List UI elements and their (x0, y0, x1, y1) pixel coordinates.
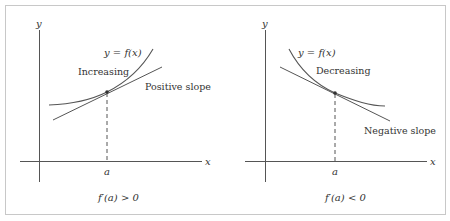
right-tangent-label: Negative slope (364, 125, 436, 136)
derivative-sign-diagram: y x y = f(x) Increasing Positive slope a… (0, 0, 450, 221)
left-curve-label: y = f(x) (103, 47, 142, 58)
left-tangent-label: Positive slope (145, 81, 211, 92)
left-tangent-point (105, 90, 109, 94)
left-trend-label: Increasing (78, 66, 129, 77)
left-panel: y x y = f(x) Increasing Positive slope a… (20, 18, 211, 203)
right-caption: f′(a) < 0 (324, 192, 366, 203)
left-x-axis-label: x (205, 156, 211, 167)
left-caption: f′(a) > 0 (97, 192, 139, 203)
right-x-axis-label: x (430, 156, 436, 167)
right-panel: y x y = f(x) Decreasing Negative slope a… (245, 18, 436, 203)
left-y-axis-label: y (35, 18, 42, 29)
right-curve-label: y = f(x) (297, 47, 336, 58)
right-y-axis-label: y (261, 18, 268, 29)
right-trend-label: Decreasing (316, 65, 371, 76)
left-point-label: a (104, 166, 110, 177)
right-point-label: a (332, 166, 338, 177)
right-tangent-point (333, 91, 337, 95)
